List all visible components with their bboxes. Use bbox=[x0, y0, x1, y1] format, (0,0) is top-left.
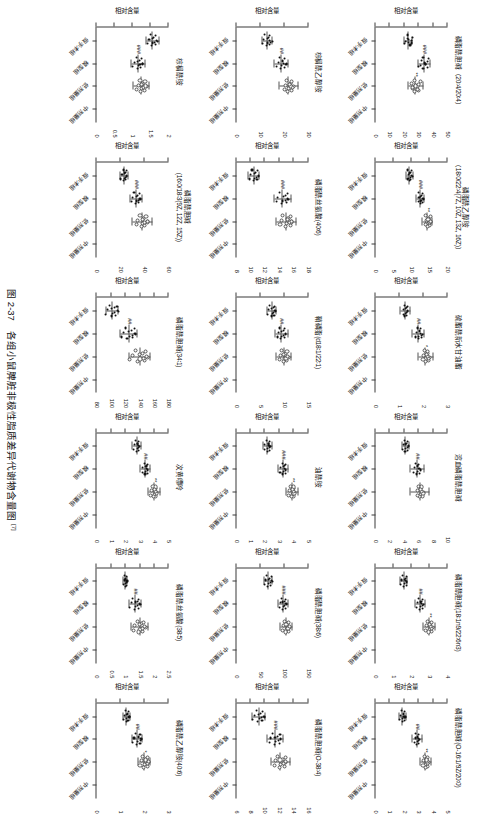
data-point bbox=[143, 349, 147, 353]
y-axis-tick bbox=[153, 428, 154, 432]
data-point bbox=[141, 471, 143, 473]
y-axis-tick bbox=[403, 428, 404, 432]
significance-marker: ### bbox=[133, 179, 139, 188]
data-point bbox=[424, 757, 428, 761]
y-axis-tick-label: 40 bbox=[141, 256, 147, 272]
data-point bbox=[253, 172, 255, 174]
panel-title-line: （18∶0/22∶4(7Z, 10Z, 13Z, 16Z)） bbox=[453, 161, 461, 253]
error-bar-cap bbox=[421, 734, 422, 742]
x-axis-tick bbox=[92, 784, 96, 785]
x-axis-tick bbox=[232, 40, 236, 41]
plot-area: 相对含量05101520假手术组模型组低剂量组中剂量组###** bbox=[353, 141, 451, 272]
data-points-layer: ##** bbox=[96, 432, 168, 528]
data-point bbox=[286, 492, 290, 496]
panel-title-line: 磷脂酰胆碱(18∶1n9/22∶6n3) bbox=[453, 574, 461, 651]
y-axis-label: 相对含量 bbox=[236, 546, 296, 555]
y-axis-label: 相对含量 bbox=[375, 275, 435, 284]
y-axis-tick-label: 50 bbox=[257, 662, 263, 678]
data-point bbox=[257, 174, 259, 176]
x-axis-tick bbox=[371, 738, 375, 739]
data-point bbox=[274, 736, 276, 738]
y-axis-tick bbox=[398, 292, 399, 296]
data-point bbox=[278, 191, 280, 193]
significance-marker: ## bbox=[132, 588, 138, 594]
data-point bbox=[135, 199, 137, 201]
data-point bbox=[252, 179, 254, 181]
data-point bbox=[261, 710, 263, 712]
data-point bbox=[104, 313, 106, 315]
data-point bbox=[284, 622, 288, 626]
data-point bbox=[256, 178, 258, 180]
y-axis-tick bbox=[374, 698, 375, 702]
x-axis-group-label: 低剂量组 bbox=[346, 215, 369, 238]
significance-marker: ### bbox=[417, 179, 423, 188]
x-axis-tick bbox=[371, 379, 375, 380]
x-axis-group-label: 模型组 bbox=[211, 192, 230, 211]
y-axis-tick-label: 0 bbox=[372, 392, 378, 408]
y-axis-tick-label: 1 bbox=[390, 662, 396, 678]
y-axis-tick bbox=[263, 698, 264, 702]
panel-title: 磷脂酰丝氨酸(38∶5) bbox=[174, 547, 190, 678]
data-point bbox=[151, 37, 153, 39]
y-axis-tick-label: 0 bbox=[372, 797, 378, 813]
y-axis-tick bbox=[410, 563, 411, 567]
data-point bbox=[133, 327, 135, 329]
data-point bbox=[404, 442, 406, 444]
significance-marker: ## bbox=[278, 318, 284, 324]
data-point bbox=[277, 61, 279, 63]
x-axis-group-label: 假手术组 bbox=[206, 575, 229, 598]
x-axis-tick bbox=[92, 514, 96, 515]
data-point bbox=[406, 440, 408, 442]
x-axis-tick bbox=[92, 580, 96, 581]
error-bar-cap bbox=[274, 329, 275, 337]
error-bar-cap bbox=[276, 352, 277, 360]
significance-marker: ### bbox=[421, 44, 427, 53]
y-axis-tick bbox=[143, 157, 144, 161]
y-axis-label: 相对含量 bbox=[236, 275, 296, 284]
error-bar-cap bbox=[428, 487, 429, 495]
significance-marker: ** bbox=[412, 72, 418, 76]
y-axis-tick-label: 5 bbox=[390, 256, 396, 272]
data-point bbox=[281, 608, 283, 610]
data-point bbox=[415, 743, 417, 745]
y-axis-tick bbox=[432, 22, 433, 26]
significance-marker: ** bbox=[151, 478, 157, 482]
data-point bbox=[130, 329, 132, 331]
y-axis-tick-label: 2.5 bbox=[165, 662, 171, 678]
x-axis-group-label: 中剂量组 bbox=[206, 103, 229, 126]
error-bar-cap bbox=[267, 734, 268, 742]
x-axis-group-label: 低剂量组 bbox=[67, 80, 90, 103]
y-axis-tick-label: 100 bbox=[108, 392, 114, 408]
significance-marker: ## bbox=[278, 47, 284, 53]
x-axis-group-label: 假手术组 bbox=[346, 575, 369, 598]
y-axis-tick bbox=[167, 157, 168, 161]
panel-title-line: 次黄嘌呤 bbox=[174, 463, 182, 490]
panel-title-line: 磷脂酰乙醇胺 bbox=[461, 186, 469, 227]
data-point bbox=[268, 304, 270, 306]
data-point bbox=[265, 439, 267, 441]
x-axis-group-label: 模型组 bbox=[350, 733, 369, 752]
y-axis-tick bbox=[446, 563, 447, 567]
y-axis-tick-label: 2 bbox=[141, 797, 147, 813]
x-axis-tick bbox=[232, 356, 236, 357]
error-bar-cap bbox=[423, 464, 424, 472]
plot-area: 相对含量051015假手术组模型组低剂量组中剂量组## bbox=[214, 276, 312, 407]
x-axis-tick bbox=[232, 738, 236, 739]
data-point bbox=[130, 200, 132, 202]
y-axis-tick-label: 2 bbox=[408, 662, 414, 678]
data-point bbox=[134, 222, 138, 226]
data-point bbox=[267, 308, 269, 310]
data-point bbox=[427, 622, 431, 626]
data-point bbox=[136, 442, 138, 444]
x-axis-group-label: 低剂量组 bbox=[346, 756, 369, 779]
y-axis-tick bbox=[428, 157, 429, 161]
panel-title-line: 磷脂酰丝氨酸(38∶5) bbox=[174, 584, 182, 641]
data-point bbox=[131, 741, 133, 743]
data-point bbox=[125, 169, 127, 171]
error-bar-cap bbox=[288, 464, 289, 472]
y-axis-label: 相对含量 bbox=[236, 411, 296, 420]
x-axis-tick bbox=[371, 603, 375, 604]
y-axis-tick-label: 3 bbox=[444, 392, 450, 408]
data-point bbox=[144, 472, 146, 474]
x-axis-tick bbox=[371, 40, 375, 41]
